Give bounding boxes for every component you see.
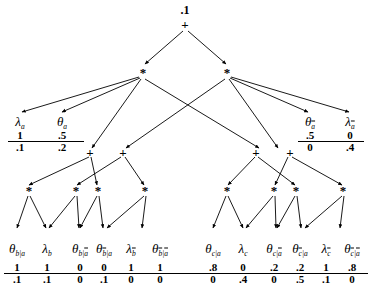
times-node-5[interactable]: * (224, 184, 231, 197)
numerator: 1 (322, 262, 330, 274)
denominator: 0 (270, 274, 278, 286)
bottom-leaf-label-b7[interactable]: θc|a (205, 242, 221, 255)
denominator: 0 (348, 274, 356, 286)
denominator: 0 (209, 274, 217, 286)
numerator: 0 (346, 130, 354, 142)
denominator: 0 (128, 274, 134, 286)
times-node-2[interactable]: * (73, 184, 80, 197)
circuit-diagram: .1 + * * + + + + * * * * * * * * λa θa θ… (0, 0, 372, 291)
bottom-leaf-label-b9[interactable]: θc|a (266, 242, 282, 255)
times-node-4[interactable]: * (142, 184, 149, 197)
leaf-label-lambda-a[interactable]: λa (15, 115, 24, 128)
times-node-8[interactable]: * (340, 184, 347, 197)
fraction-rule-right (298, 141, 364, 142)
bottom-leaf-label-b12[interactable]: θc|a (344, 242, 360, 255)
times-node-7[interactable]: * (293, 184, 300, 197)
numerator: 1 (16, 130, 24, 142)
numerator: .2 (296, 262, 304, 274)
bottom-leaf-label-b1[interactable]: θb|a (9, 242, 25, 255)
root-value: .1 (181, 4, 190, 16)
numerator: 0 (239, 262, 247, 274)
denominator: .1 (16, 142, 24, 154)
numerator: .8 (209, 262, 217, 274)
numerator: 1 (157, 262, 163, 274)
leaf-label-theta-abar[interactable]: θa (305, 115, 315, 128)
numerator: 1 (43, 262, 51, 274)
denominator: .1 (100, 274, 108, 286)
numerator: .8 (348, 262, 356, 274)
times-node-3[interactable]: * (95, 184, 102, 197)
denominator: 0 (306, 142, 314, 154)
denominator: .5 (296, 274, 304, 286)
root-plus-node[interactable]: + (181, 18, 188, 31)
denominator: .1 (13, 274, 21, 286)
numerator: 1 (13, 262, 21, 274)
edge-layer (0, 0, 372, 291)
denominator: 0 (77, 274, 83, 286)
plus-node-2[interactable]: + (119, 146, 126, 159)
numerator: 0 (77, 262, 83, 274)
numerator: 0 (100, 262, 108, 274)
numerator: .5 (306, 130, 314, 142)
times-node-6[interactable]: * (271, 184, 278, 197)
denominator: .4 (239, 274, 247, 286)
denominator: 0 (157, 274, 163, 286)
bottom-leaf-label-b10[interactable]: θc|a (292, 242, 308, 255)
numerator: 1 (128, 262, 134, 274)
times-node-top-right[interactable]: * (224, 66, 231, 79)
bottom-leaf-label-b4[interactable]: θb|a (96, 242, 112, 255)
bottom-leaf-label-b2[interactable]: λb (42, 242, 51, 255)
leaf-label-theta-a[interactable]: θa (57, 115, 67, 128)
bottom-leaf-label-b6[interactable]: θb|a (152, 242, 168, 255)
plus-node-4[interactable]: + (286, 146, 293, 159)
leaf-label-lambda-abar[interactable]: λa (345, 115, 354, 128)
plus-node-1[interactable]: + (86, 146, 93, 159)
times-node-1[interactable]: * (26, 184, 33, 197)
bottom-leaf-label-b11[interactable]: λc (322, 242, 331, 255)
denominator: .1 (43, 274, 51, 286)
times-node-top-left[interactable]: * (140, 66, 147, 79)
plus-node-3[interactable]: + (252, 146, 259, 159)
bottom-leaf-label-b5[interactable]: λb (126, 242, 135, 255)
bottom-leaf-label-b8[interactable]: λc (239, 242, 248, 255)
denominator: .2 (58, 142, 66, 154)
denominator: .1 (322, 274, 330, 286)
fraction-rule-left (8, 141, 84, 142)
fraction-rule-bottom (4, 273, 368, 274)
bottom-leaf-label-b3[interactable]: θb|a (72, 242, 88, 255)
denominator: .4 (346, 142, 354, 154)
numerator: .2 (270, 262, 278, 274)
numerator: .5 (58, 130, 66, 142)
